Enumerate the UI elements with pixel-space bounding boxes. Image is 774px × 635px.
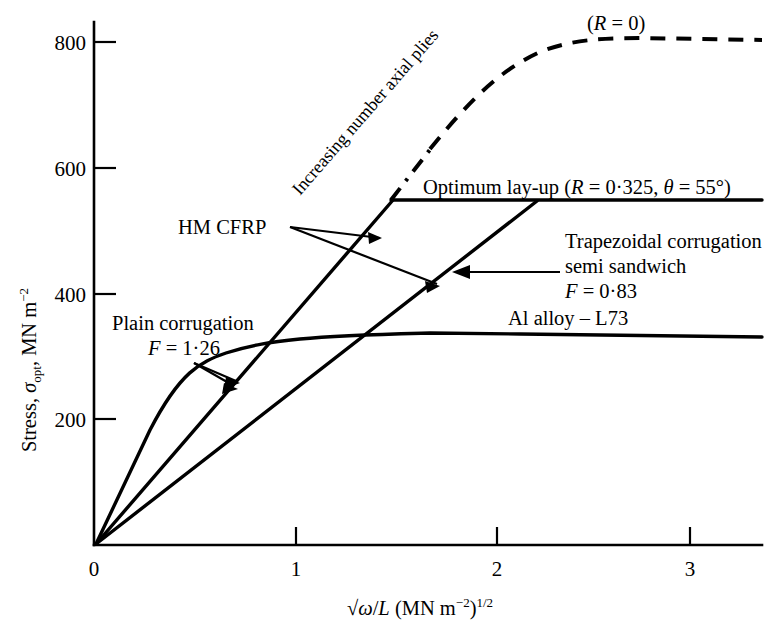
y-axis-title-units: , MN m <box>18 302 40 366</box>
x-axis-exponent: 1/2 <box>476 595 493 610</box>
y-tick-label-400: 400 <box>55 283 87 307</box>
trapezoidal-F-symbol: F <box>564 280 578 302</box>
x-tick-label-1: 1 <box>291 557 302 581</box>
curve-r-zero-dashed <box>430 38 762 149</box>
x-axis-L: L <box>377 597 389 619</box>
figure-container: 800 600 400 200 0 1 2 3 Stress, σopt, MN… <box>0 0 774 635</box>
svg-text:Stress, σopt, MN m−2: Stress, σopt, MN m−2 <box>16 288 44 452</box>
annotation-trapezoidal-line2: semi sandwich <box>565 255 686 277</box>
annotation-trapezoidal-f: F = 0·83 <box>564 280 637 302</box>
x-axis-radical-icon: √ <box>347 597 359 619</box>
stress-vs-sqrt-omega-over-L-chart: 800 600 400 200 0 1 2 3 Stress, σopt, MN… <box>0 0 774 635</box>
trapezoidal-F-value: = 0·83 <box>578 280 637 302</box>
y-axis-title-prefix: Stress, <box>18 393 40 452</box>
x-tick-label-2: 2 <box>492 557 503 581</box>
curve-trapezoidal-corrugation <box>96 201 537 544</box>
y-tick-label-200: 200 <box>55 408 87 432</box>
plain-F-symbol: F <box>147 337 161 359</box>
y-axis-title: Stress, σopt, MN m−2 <box>16 288 44 452</box>
optimum-theta: θ <box>663 176 673 198</box>
optimum-prefix: Optimum lay-up ( <box>423 176 571 199</box>
annotation-increasing-plies: Increasing number axial plies <box>288 25 442 198</box>
optimum-end: = 55°) <box>674 176 731 199</box>
x-tick-label-0: 0 <box>89 557 100 581</box>
r-zero-value: = 0) <box>606 12 645 35</box>
y-tick-label-800: 800 <box>55 31 87 55</box>
annotation-plain-corrugation-f: F = 1·26 <box>147 337 220 359</box>
y-axis-title-superscript: −2 <box>16 288 31 302</box>
x-axis-units-superscript: −2 <box>456 595 470 610</box>
annotation-al-alloy: Al alloy – L73 <box>508 307 628 330</box>
arrowhead-hm-cfrp-upper <box>368 232 382 244</box>
curve-hm-cfrp <box>96 200 393 544</box>
annotation-optimum-layup: Optimum lay-up (R = 0·325, θ = 55°) <box>423 176 731 199</box>
annotations-group: (R = 0) Increasing number axial plies Op… <box>112 12 762 359</box>
optimum-R: R <box>570 176 584 198</box>
optimum-mid: = 0·325, <box>584 176 664 198</box>
annotation-hm-cfrp: HM CFRP <box>178 216 266 238</box>
annotation-r-zero: (R = 0) <box>587 12 645 35</box>
x-axis-omega: ω <box>358 597 372 619</box>
r-zero-R: R <box>593 12 607 34</box>
annotation-trapezoidal-line1: Trapezoidal corrugation <box>565 230 762 253</box>
x-tick-label-3: 3 <box>685 557 696 581</box>
leader-plain-corrugation-b <box>194 363 236 381</box>
x-axis-title: √ω/L (MN m−2)1/2 <box>347 595 493 620</box>
y-axis-title-subscript: opt <box>29 366 44 383</box>
x-axis-units-open: (MN m <box>390 597 456 620</box>
y-tick-label-600: 600 <box>55 157 87 181</box>
annotation-plain-corrugation: Plain corrugation <box>112 312 254 335</box>
svg-text:√ω/L (MN m−2)1/2: √ω/L (MN m−2)1/2 <box>347 595 493 620</box>
plain-F-value: = 1·26 <box>161 337 220 359</box>
x-axis-units-close: ) <box>470 597 477 620</box>
